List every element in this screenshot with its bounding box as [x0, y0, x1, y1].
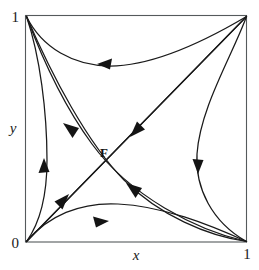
phase-portrait-figure: 1 0 1 y x F [0, 0, 259, 270]
arrow-bottom-edge-right [93, 217, 109, 228]
arrow-separatrix-upper-up-left [63, 123, 79, 138]
y-axis-label: y [8, 120, 17, 136]
origin-tick-label: 0 [12, 235, 20, 251]
x-axis-max-tick-label: 1 [243, 246, 251, 262]
arrow-anti-diagonal-down-left [130, 122, 145, 138]
arrow-top-edge-left [97, 59, 112, 70]
arrow-separatrix-lower-up-left [126, 183, 142, 198]
phase-portrait-svg: 1 0 1 y x F [0, 0, 259, 270]
y-axis-max-tick-label: 1 [12, 9, 20, 25]
arrow-main-diagonal-up-right [55, 194, 70, 210]
arrow-right-edge-down [193, 159, 204, 174]
traj-left-edge-curve [27, 17, 48, 242]
arrow-left-edge-up [39, 158, 50, 173]
fixed-point-label-f: F [100, 145, 108, 160]
traj-bottom-edge-curve [27, 204, 247, 242]
traj-top-edge-curve [27, 17, 247, 67]
x-axis-label: x [132, 247, 140, 263]
traj-right-edge-curve [197, 17, 247, 242]
